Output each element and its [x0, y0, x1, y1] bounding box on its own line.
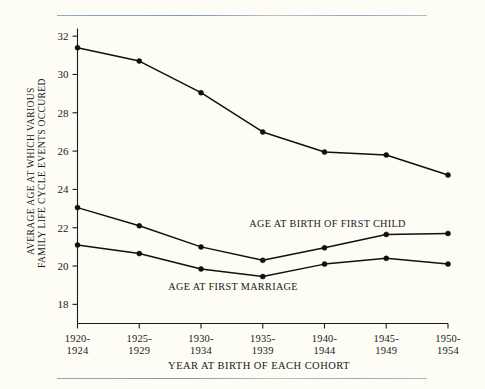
data-point-marker: [384, 152, 389, 157]
x-tick-label: 1945-1949: [374, 333, 400, 356]
y-tick-label: 20: [58, 260, 70, 272]
y-tick-label: 18: [58, 298, 70, 310]
x-tick-label-line: 1920-: [65, 333, 91, 344]
x-tick-label-line: 1954: [437, 345, 459, 356]
y-axis-title: AVERAGE AGE AT WHICH VARIOUS FAMILY LIFE…: [25, 78, 47, 268]
bottom-divider-rule: [57, 378, 427, 379]
data-point-marker: [75, 242, 80, 247]
line-chart: 3230282624222018 1920-19241925-19291930-…: [0, 0, 485, 389]
x-tick-label-line: 1924: [67, 345, 89, 356]
data-point-marker: [137, 59, 142, 64]
x-tick-label-line: 1934: [190, 345, 212, 356]
x-tick-label-line: 1945-: [374, 333, 400, 344]
data-point-marker: [75, 205, 80, 210]
y-tick-label: 24: [58, 183, 70, 195]
data-point-marker: [75, 45, 80, 50]
x-tick-label-line: 1940-: [312, 333, 338, 344]
y-tick-label: 30: [58, 68, 70, 80]
y-tick-label: 32: [58, 30, 69, 42]
data-point-marker: [260, 274, 265, 279]
data-point-marker: [137, 223, 142, 228]
data-point-marker: [199, 90, 204, 95]
x-tick-label-line: 1929: [128, 345, 150, 356]
x-axis-title: YEAR AT BIRTH OF EACH COHORT: [168, 360, 350, 371]
series-annotation-2: AGE AT FIRST MARRIAGE: [168, 281, 298, 292]
data-series-group: [75, 45, 451, 279]
data-point-marker: [384, 256, 389, 261]
x-tick-label: 1950-1954: [435, 333, 461, 356]
data-point-marker: [260, 129, 265, 134]
x-tick-label-line: 1939: [252, 345, 274, 356]
y-tick-mark-group: [73, 36, 78, 304]
y-axis-title-line1: AVERAGE AGE AT WHICH VARIOUS: [25, 87, 36, 255]
x-tick-label-group: 1920-19241925-19291930-19341935-19391940…: [65, 333, 461, 356]
x-tick-label-line: 1950-: [435, 333, 461, 344]
data-point-marker: [384, 232, 389, 237]
series-annotation-1: AGE AT BIRTH OF FIRST CHILD: [249, 218, 405, 229]
x-tick-label: 1925-1929: [127, 333, 153, 356]
data-point-marker: [446, 231, 451, 236]
top-divider-rule: [57, 15, 427, 16]
data-point-marker: [446, 173, 451, 178]
y-tick-label: 22: [58, 222, 69, 234]
y-axis-title-line2: FAMILY LIFE CYCLE EVENTS OCCURED: [36, 78, 47, 268]
x-tick-label-line: 1944: [314, 345, 336, 356]
x-tick-label-line: 1935-: [250, 333, 276, 344]
data-point-marker: [322, 150, 327, 155]
series-line-1: [78, 48, 449, 175]
x-tick-label: 1940-1944: [312, 333, 338, 356]
x-tick-label: 1930-1934: [188, 333, 214, 356]
x-tick-label-line: 1949: [375, 345, 397, 356]
data-point-marker: [260, 258, 265, 263]
data-point-marker: [446, 262, 451, 267]
data-point-marker: [322, 245, 327, 250]
x-tick-label-line: 1930-: [188, 333, 214, 344]
x-tick-label-line: 1925-: [127, 333, 153, 344]
y-tick-label: 28: [58, 107, 70, 119]
data-point-marker: [137, 251, 142, 256]
figure-container: 3230282624222018 1920-19241925-19291930-…: [0, 0, 485, 389]
x-tick-label: 1935-1939: [250, 333, 276, 356]
y-tick-label: 26: [58, 145, 70, 157]
x-tick-mark-group: [78, 324, 449, 329]
data-point-marker: [199, 244, 204, 249]
data-point-marker: [199, 266, 204, 271]
data-point-marker: [322, 262, 327, 267]
y-tick-label-group: 3230282624222018: [58, 30, 70, 310]
x-tick-label: 1920-1924: [65, 333, 91, 356]
